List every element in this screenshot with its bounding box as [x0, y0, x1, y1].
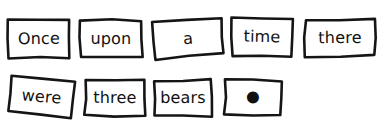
word-card-label: upon: [78, 18, 144, 61]
word-card[interactable]: there: [303, 17, 377, 59]
word-card[interactable]: upon: [78, 18, 144, 60]
word-card[interactable]: •: [223, 78, 283, 117]
word-card-label: a: [151, 15, 226, 62]
word-card-label: three: [83, 78, 147, 119]
word-card-label: there: [303, 17, 377, 60]
word-card[interactable]: three: [83, 78, 147, 118]
word-card-label: time: [230, 15, 295, 59]
word-card[interactable]: were: [5, 74, 77, 120]
word-card[interactable]: time: [230, 15, 295, 58]
word-card[interactable]: Once: [6, 17, 73, 61]
word-card[interactable]: bears: [152, 78, 214, 118]
word-card[interactable]: a: [151, 15, 226, 61]
period-dot-icon: •: [223, 78, 283, 128]
word-card-label: were: [5, 74, 77, 121]
word-card-label: Once: [6, 17, 73, 62]
word-card-label: bears: [152, 78, 214, 119]
word-card-canvas: Onceuponatimetherewerethreebears•: [0, 0, 390, 132]
